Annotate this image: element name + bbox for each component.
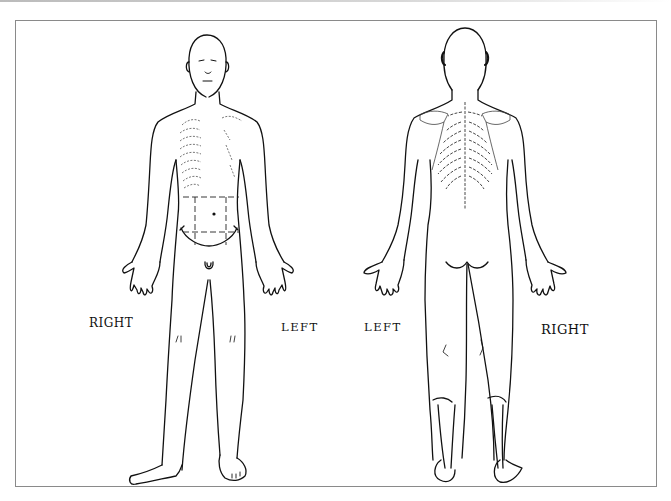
back-left-side-label: LEFT <box>364 320 402 334</box>
back-body-figure <box>0 0 671 501</box>
front-left-side-label: LEFT <box>281 320 319 334</box>
front-right-side-label: RIGHT <box>89 316 133 330</box>
back-right-side-label: RIGHT <box>541 322 589 337</box>
back-head <box>444 28 486 90</box>
